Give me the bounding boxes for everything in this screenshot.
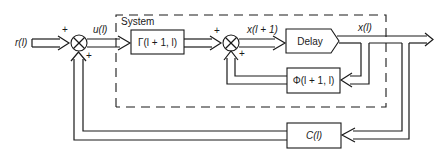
summing-junction-1 bbox=[71, 35, 87, 51]
next-state-label: x(l + 1) bbox=[246, 24, 278, 35]
gamma-output-arrow bbox=[184, 36, 221, 50]
c-feedback-arrow bbox=[342, 43, 409, 142]
control-label: u(l) bbox=[93, 24, 107, 35]
phi-output-path bbox=[224, 51, 287, 84]
state-label: x(l) bbox=[357, 22, 372, 33]
control-arrow bbox=[87, 36, 130, 50]
input-arrow bbox=[32, 36, 69, 50]
summing-junction-2 bbox=[223, 35, 239, 51]
delay-label: Delay bbox=[297, 36, 323, 47]
gamma-label: Γ(l + 1, l) bbox=[138, 37, 177, 48]
sum2-plus-top: + bbox=[214, 25, 220, 36]
input-label: r(l) bbox=[15, 37, 27, 48]
state-output-arrow bbox=[337, 33, 433, 46]
block-diagram: System r(l) + + u(l) Γ(l + 1, l) + + bbox=[0, 0, 447, 154]
phi-feedback-arrow bbox=[341, 43, 369, 87]
next-state-arrow bbox=[239, 36, 285, 50]
system-label: System bbox=[121, 16, 154, 27]
sum1-plus-top: + bbox=[62, 24, 68, 35]
c-output-path bbox=[71, 52, 287, 140]
phi-label: Φ(l + 1, l) bbox=[293, 75, 335, 86]
sum1-plus-bottom: + bbox=[86, 50, 92, 61]
sum2-plus-bottom: + bbox=[239, 48, 245, 59]
c-label: C(l) bbox=[306, 130, 322, 141]
